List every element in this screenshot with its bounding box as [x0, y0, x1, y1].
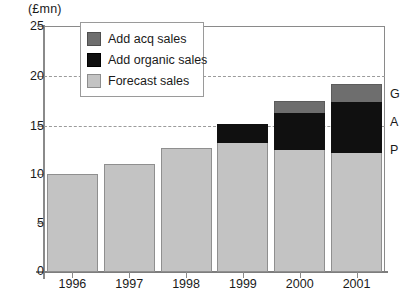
gap-letter-a: A — [390, 116, 398, 128]
legend-item-add-organic-sales: Add organic sales — [87, 49, 197, 70]
y-tick-label-15: 15 — [18, 120, 44, 132]
legend-label-forecast-sales: Forecast sales — [108, 74, 189, 88]
legend-item-forecast-sales: Forecast sales — [87, 70, 197, 91]
bar-segment-acq-2001 — [331, 84, 382, 102]
bar-segment-forecast-2000 — [274, 150, 325, 272]
x-tick-label-1996: 1996 — [44, 277, 101, 291]
x-tick-label-1999: 1999 — [215, 277, 272, 291]
chart-legend: Add acq sales Add organic sales Forecast… — [80, 22, 204, 97]
bar-1999 — [217, 124, 268, 272]
legend-label-add-acq-sales: Add acq sales — [108, 32, 187, 46]
bar-segment-organic-1999 — [217, 124, 268, 143]
y-tick-label-20: 20 — [18, 70, 44, 82]
legend-label-add-organic-sales: Add organic sales — [108, 53, 207, 67]
bar-1996 — [47, 174, 98, 272]
y-tick-label-5: 5 — [18, 217, 44, 229]
bar-segment-forecast-1996 — [47, 174, 98, 272]
gap-letter-g: G — [390, 88, 400, 100]
y-tick-label-0: 0 — [18, 265, 44, 277]
x-tick-label-2001: 2001 — [328, 277, 385, 291]
light-gray-swatch-icon — [87, 74, 101, 88]
sales-forecast-stacked-bar-chart: (£mn) 25 20 15 10 5 0 199619971998199920… — [0, 0, 408, 298]
x-tick-label-1997: 1997 — [101, 277, 158, 291]
bar-2000 — [274, 101, 325, 272]
dark-gray-swatch-icon — [87, 32, 101, 46]
bar-segment-organic-2000 — [274, 113, 325, 150]
bar-1997 — [104, 164, 155, 272]
legend-item-add-acq-sales: Add acq sales — [87, 28, 197, 49]
bar-1998 — [161, 148, 212, 272]
gap-letter-p: P — [390, 144, 398, 156]
y-axis-ticks: 25 20 15 10 5 0 — [0, 0, 44, 298]
bar-segment-acq-2000 — [274, 101, 325, 113]
x-tick-label-1998: 1998 — [158, 277, 215, 291]
y-tick-label-10: 10 — [18, 168, 44, 180]
bar-segment-forecast-1998 — [161, 148, 212, 272]
bar-segment-forecast-1997 — [104, 164, 155, 272]
bar-2001 — [331, 84, 382, 272]
bar-segment-forecast-2001 — [331, 153, 382, 272]
y-tick-label-25: 25 — [18, 20, 44, 32]
x-tick-label-2000: 2000 — [271, 277, 328, 291]
bar-segment-forecast-1999 — [217, 143, 268, 272]
black-swatch-icon — [87, 53, 101, 67]
bar-segment-organic-2001 — [331, 102, 382, 153]
